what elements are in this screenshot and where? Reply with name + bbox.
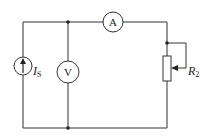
current-source-label: IS [32, 64, 41, 79]
wiper-arrow-icon [171, 65, 178, 71]
voltmeter: V [57, 61, 79, 83]
junction-dot [66, 20, 70, 24]
ammeter-label: A [109, 16, 117, 28]
junction-dot [165, 41, 169, 45]
current-source [14, 57, 32, 75]
rheostat-label: R2 [187, 64, 199, 79]
rheostat [163, 56, 178, 81]
junction-dot [66, 126, 70, 130]
circuit-diagram: IS V A R2 [0, 0, 211, 140]
voltmeter-label: V [64, 66, 72, 78]
ammeter: A [103, 12, 123, 32]
